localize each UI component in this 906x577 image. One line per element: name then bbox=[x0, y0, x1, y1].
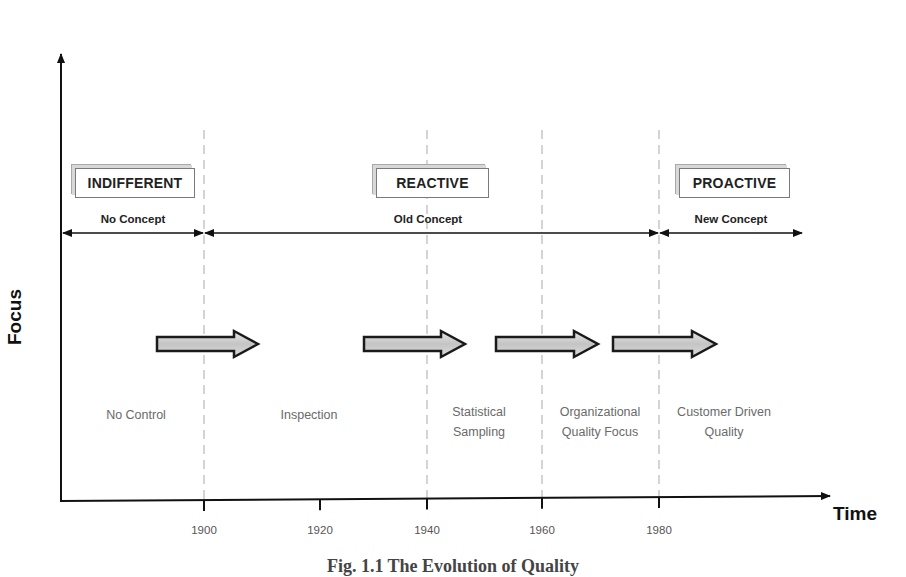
block-arrow-icon bbox=[157, 331, 258, 357]
x-tick-label: 1900 bbox=[191, 524, 217, 536]
stage-label: StatisticalSampling bbox=[452, 402, 506, 442]
y-axis-title: Focus bbox=[4, 289, 26, 345]
x-tick-label: 1940 bbox=[414, 524, 440, 536]
stage-label: No Control bbox=[106, 405, 166, 425]
phase-box-indifferent: INDIFFERENT bbox=[75, 168, 195, 198]
block-arrow-icon bbox=[613, 331, 716, 357]
stage-label: OrganizationalQuality Focus bbox=[560, 402, 641, 442]
stage-label-line: Inspection bbox=[281, 405, 338, 425]
x-tick-label: 1980 bbox=[646, 524, 672, 536]
x-axis-title: Time bbox=[833, 503, 877, 525]
progress-arrows bbox=[157, 331, 716, 357]
phase-box-proactive: PROACTIVE bbox=[679, 168, 790, 198]
stage-label-line: Quality bbox=[677, 422, 771, 442]
concept-label: Old Concept bbox=[394, 213, 462, 225]
figure-caption: Fig. 1.1 The Evolution of Quality bbox=[327, 556, 579, 577]
x-tick-label: 1960 bbox=[529, 524, 555, 536]
x-tick-label: 1920 bbox=[307, 524, 333, 536]
stage-label-line: No Control bbox=[106, 405, 166, 425]
stage-label-line: Statistical bbox=[452, 402, 506, 422]
stage-label: Customer DrivenQuality bbox=[677, 402, 771, 442]
stage-label-line: Customer Driven bbox=[677, 402, 771, 422]
stage-label-line: Sampling bbox=[452, 422, 506, 442]
stage-label-line: Organizational bbox=[560, 402, 641, 422]
block-arrow-icon bbox=[496, 331, 598, 357]
phase-box-reactive: REACTIVE bbox=[376, 168, 489, 198]
concept-label: No Concept bbox=[101, 213, 166, 225]
stage-label: Inspection bbox=[281, 405, 338, 425]
x-axis-line bbox=[60, 496, 830, 501]
stage-label-line: Quality Focus bbox=[560, 422, 641, 442]
block-arrow-icon bbox=[364, 331, 465, 357]
concept-label: New Concept bbox=[695, 213, 768, 225]
